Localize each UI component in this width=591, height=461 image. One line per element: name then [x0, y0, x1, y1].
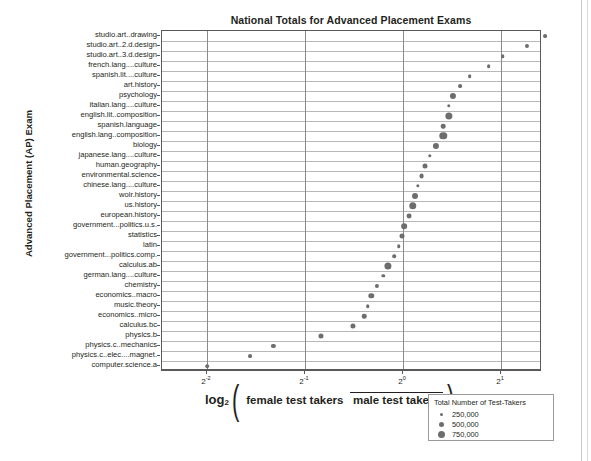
legend-item-label: 750,000	[452, 430, 479, 439]
y-axis-tick-label: biology	[133, 141, 157, 149]
y-axis-tick-label: italian.lang....culture	[89, 101, 157, 109]
horizontal-gridline	[162, 71, 540, 72]
data-point	[525, 44, 529, 48]
y-axis-tick-label: wolr.history	[119, 191, 157, 199]
legend-dot-icon	[434, 422, 448, 427]
vertical-gridline	[501, 31, 502, 369]
y-axis-tick-label: japanese.lang....culture	[78, 151, 157, 159]
horizontal-gridline	[162, 321, 540, 322]
y-axis-tick	[157, 295, 160, 296]
y-axis-tick-label: spanish.lit....culture	[92, 71, 157, 79]
x-axis-log-label: log	[205, 392, 225, 407]
y-axis-tick	[157, 195, 160, 196]
horizontal-gridline	[162, 131, 540, 132]
horizontal-gridline	[162, 261, 540, 262]
chart-title: National Totals for Advanced Placement E…	[161, 14, 541, 26]
vertical-gridline	[403, 31, 404, 369]
y-axis-tick-label: psychology	[119, 91, 157, 99]
data-point	[447, 104, 450, 107]
page-edge	[581, 0, 591, 461]
horizontal-gridline	[162, 341, 540, 342]
data-point	[369, 293, 374, 298]
data-point	[399, 234, 404, 239]
y-axis-tick	[157, 275, 160, 276]
y-axis-tick	[157, 75, 160, 76]
horizontal-gridline	[162, 251, 540, 252]
horizontal-gridline	[162, 311, 540, 312]
y-axis-tick	[157, 165, 160, 166]
y-axis-tick	[157, 345, 160, 346]
y-axis-tick-label: calculus.bc	[119, 321, 157, 329]
x-axis-tick	[304, 370, 305, 374]
data-point	[459, 84, 463, 88]
horizontal-gridline	[162, 211, 540, 212]
ratio-fraction: female test takers male test takers	[243, 393, 443, 407]
y-axis-tick-label: german.lang....culture	[84, 271, 157, 279]
y-axis-tick-label: government...politics.comp.	[65, 251, 157, 259]
y-axis-tick-label: studio.art..3.d.design	[87, 51, 158, 59]
plot-area	[161, 30, 541, 370]
data-point	[397, 244, 401, 248]
legend-entries: 250,000500,000750,000	[434, 409, 548, 439]
legend-dot-icon	[434, 413, 448, 416]
y-axis-tick	[157, 215, 160, 216]
horizontal-gridline	[162, 111, 540, 112]
y-axis-tick	[157, 265, 160, 266]
y-axis-tick-label: physics.c..mechanics	[85, 341, 157, 349]
y-axis-tick-label: chinese.lang....culture	[83, 181, 157, 189]
y-axis-tick-label: environmental.science	[81, 171, 157, 179]
y-axis-tick-label: english.lang..composition	[72, 131, 157, 139]
y-axis-tick	[157, 85, 160, 86]
horizontal-gridline	[162, 181, 540, 182]
y-axis-tick	[157, 95, 160, 96]
y-axis-tick	[157, 365, 160, 366]
y-axis-tick	[157, 135, 160, 136]
data-point	[441, 124, 446, 129]
data-point	[428, 154, 431, 157]
y-axis-tick	[157, 255, 160, 256]
y-axis-tick-label: latin	[143, 241, 157, 249]
horizontal-gridline	[162, 221, 540, 222]
horizontal-gridline	[162, 361, 540, 362]
y-axis-tick	[157, 205, 160, 206]
horizontal-gridline	[162, 171, 540, 172]
x-axis-title: log2 ( female test takers male test take…	[205, 392, 457, 407]
y-axis-tick-label: human.geography	[96, 161, 157, 169]
y-axis-labels: studio.art..drawingstudio.art..2.d.desig…	[0, 30, 157, 370]
data-point	[318, 333, 323, 338]
data-point	[205, 364, 209, 368]
x-axis-tick	[402, 370, 403, 374]
y-axis-tick	[157, 355, 160, 356]
y-axis-tick-label: english.lit..composition	[81, 111, 157, 119]
legend: Total Number of Test-Takers 250,000500,0…	[428, 394, 554, 441]
y-axis-tick-label: studio.art..2.d.design	[87, 41, 158, 49]
x-axis-tick-label: 20	[398, 375, 406, 386]
data-point	[440, 132, 447, 139]
horizontal-gridline	[162, 121, 540, 122]
y-axis-tick-label: physics.b	[125, 331, 157, 339]
y-axis-tick-label: economics..micro	[98, 311, 157, 319]
horizontal-gridline	[162, 61, 540, 62]
y-axis-tick-label: computer.science.a	[92, 361, 157, 369]
y-axis-tick	[157, 35, 160, 36]
data-point	[350, 323, 355, 328]
data-point	[402, 223, 408, 229]
data-point	[362, 314, 367, 319]
x-axis-log-base: 2	[225, 398, 229, 407]
legend-item-label: 500,000	[452, 420, 479, 429]
y-axis-tick	[157, 185, 160, 186]
horizontal-gridline	[162, 231, 540, 232]
y-axis-tick-label: calculus.ab	[119, 261, 157, 269]
data-point	[543, 34, 547, 38]
data-point	[406, 214, 411, 219]
data-point	[468, 74, 472, 78]
y-axis-tick	[157, 105, 160, 106]
x-axis-tick-label: 2-2	[201, 375, 210, 386]
y-axis-tick	[157, 325, 160, 326]
horizontal-gridline	[162, 271, 540, 272]
data-point	[366, 304, 370, 308]
data-point	[385, 262, 392, 269]
x-axis-tick	[206, 370, 207, 374]
y-axis-tick	[157, 245, 160, 246]
horizontal-gridline	[162, 351, 540, 352]
